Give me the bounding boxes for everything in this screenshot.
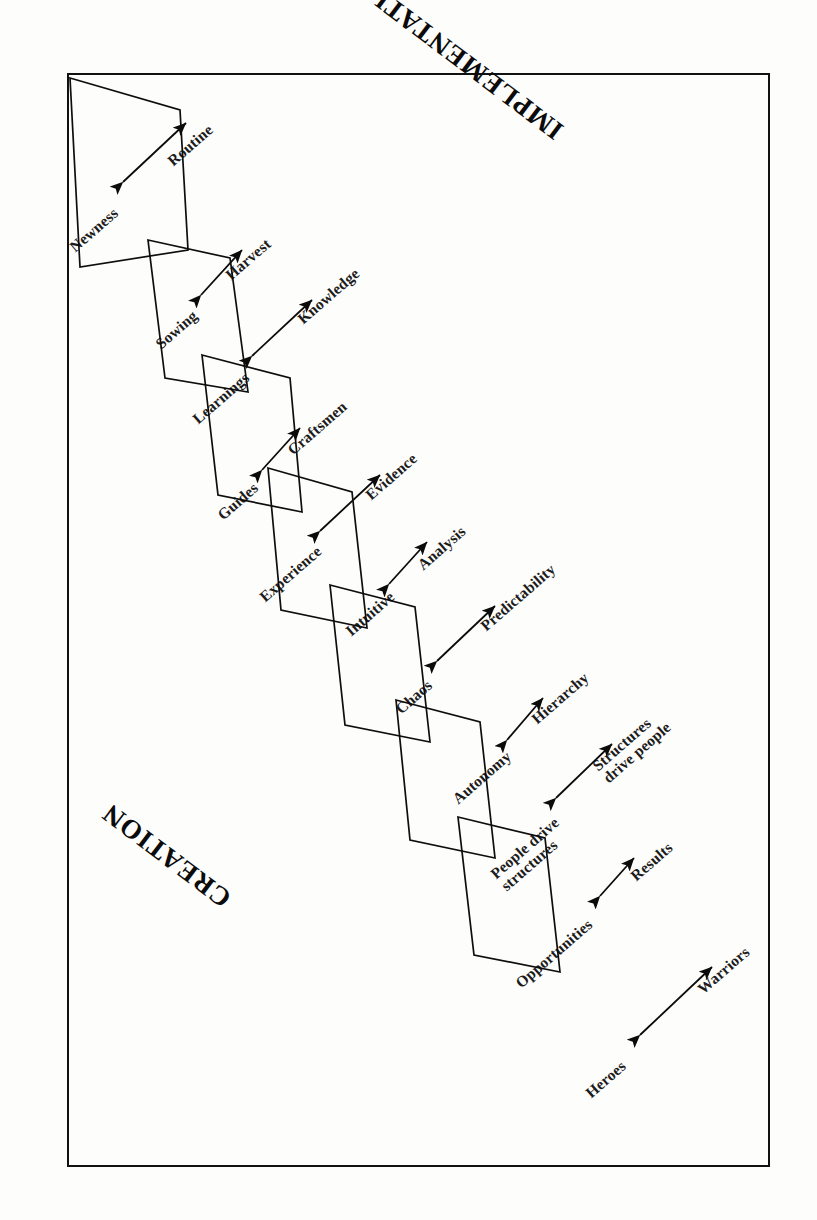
figure-artwork [0, 0, 817, 1220]
arrow-l10 [600, 858, 634, 896]
figure-page: NewnessRoutineSowingHarvestLearningsKnow… [0, 0, 817, 1220]
